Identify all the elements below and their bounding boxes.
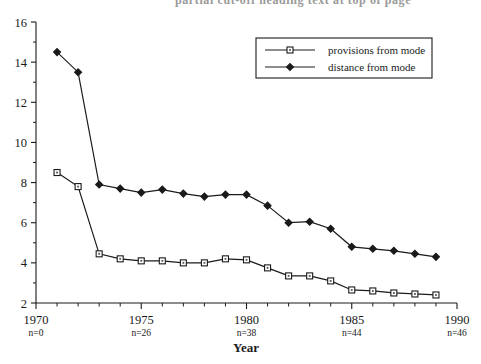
data-point-provisions-from-mode-center [246, 259, 248, 261]
x-axis-sample-size-label: n=44 [342, 328, 362, 338]
data-point-provisions-from-mode-center [98, 253, 100, 255]
data-series-group [54, 49, 440, 298]
y-axis-tick-label: 14 [15, 56, 28, 70]
data-point-provisions-from-mode-center [414, 293, 416, 295]
data-point-distance-from-mode [138, 189, 145, 196]
data-point-provisions-from-mode-center [267, 267, 269, 269]
data-point-distance-from-mode [306, 218, 313, 225]
y-axis-tick-label: 6 [21, 216, 27, 230]
data-point-distance-from-mode [96, 181, 103, 188]
data-point-distance-from-mode [180, 190, 187, 197]
data-point-provisions-from-mode-center [119, 258, 121, 260]
clipped-heading-text: partial cut-off heading text at top of p… [175, 0, 475, 8]
x-axis-sample-size-label: n=46 [447, 328, 467, 338]
data-point-provisions-from-mode-center [182, 262, 184, 264]
data-point-distance-from-mode [159, 186, 166, 193]
data-point-provisions-from-mode-center [393, 292, 395, 294]
data-point-distance-from-mode [201, 193, 208, 200]
data-point-distance-from-mode [222, 191, 229, 198]
data-point-provisions-from-mode-center [140, 260, 142, 262]
series-line-distance-from-mode [57, 52, 436, 257]
y-axis-tick-label: 10 [15, 136, 28, 150]
data-point-provisions-from-mode-center [288, 275, 290, 277]
data-point-provisions-from-mode-center [309, 275, 311, 277]
data-point-provisions-from-mode-center [351, 289, 353, 291]
x-axis-tick-label: 1985 [339, 313, 364, 327]
legend-label: provisions from mode [328, 44, 425, 56]
y-axis-tick-label: 2 [21, 297, 27, 311]
x-axis-title: Year [233, 340, 259, 355]
y-axis-tick-label: 4 [21, 256, 28, 270]
data-point-provisions-from-mode-center [56, 172, 58, 174]
y-axis-tick-label: 8 [21, 176, 27, 190]
x-axis-tick-label: 1990 [445, 313, 470, 327]
data-point-provisions-from-mode-center [161, 260, 163, 262]
x-axis-tick-label: 1975 [129, 313, 154, 327]
y-axis: 246810121416 [15, 16, 37, 311]
data-point-provisions-from-mode-center [372, 290, 374, 292]
data-point-provisions-from-mode-center [435, 294, 437, 296]
chart-legend: provisions from modedistance from mode [256, 38, 432, 78]
data-point-provisions-from-mode-center [330, 280, 332, 282]
y-axis-tick-label: 12 [15, 96, 28, 110]
data-point-distance-from-mode [370, 246, 377, 253]
y-axis-tick-label: 16 [15, 16, 28, 30]
data-point-provisions-from-mode-center [77, 186, 79, 188]
chart-plot-area: 246810121416 1970n=01975n=261980n=381985… [0, 0, 481, 364]
data-point-provisions-from-mode-center [225, 258, 227, 260]
x-axis: 1970n=01975n=261980n=381985n=441990n=46 [24, 303, 470, 338]
data-point-provisions-from-mode-center [204, 262, 206, 264]
data-point-distance-from-mode [117, 185, 124, 192]
legend-label: distance from mode [328, 61, 415, 73]
x-axis-sample-size-label: n=0 [29, 328, 44, 338]
data-point-distance-from-mode [412, 251, 419, 258]
data-point-distance-from-mode [243, 191, 250, 198]
data-point-distance-from-mode [433, 254, 440, 261]
data-point-distance-from-mode [391, 248, 398, 255]
x-axis-tick-label: 1980 [234, 313, 259, 327]
chart-figure: partial cut-off heading text at top of p… [0, 0, 481, 364]
legend-marker-open-square-center [289, 49, 291, 51]
x-axis-sample-size-label: n=26 [131, 328, 151, 338]
x-axis-tick-label: 1970 [24, 313, 49, 327]
x-axis-sample-size-label: n=38 [237, 328, 257, 338]
clipped-heading: partial cut-off heading text at top of p… [175, 0, 475, 9]
